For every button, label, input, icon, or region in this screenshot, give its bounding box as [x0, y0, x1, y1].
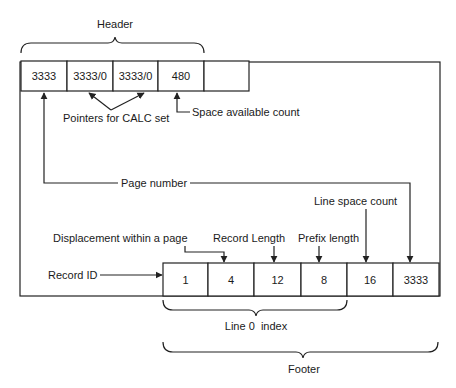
line0-index-brace: [163, 300, 347, 316]
footer-cell-value: 12: [271, 274, 283, 286]
footer-cells: 1 4 12 8 16 3333: [163, 263, 439, 296]
displacement-label: Displacement within a page: [53, 232, 188, 244]
footer-label: Footer: [288, 363, 320, 375]
page-layout-diagram: Header 3333 3333/0 3333/0 480 Pointers f…: [0, 0, 456, 388]
prefix-length-label: Prefix length: [298, 232, 359, 244]
header-cells: 3333 3333/0 3333/0 480: [21, 61, 249, 91]
header-cell-value: 480: [172, 70, 190, 82]
page-number-label: Page number: [121, 177, 187, 189]
line-space-count-label: Line space count: [314, 195, 397, 207]
line0-index-label: Line 0 index: [225, 320, 288, 332]
pointers-calc-label: Pointers for CALC set: [63, 112, 169, 124]
space-available-label: Space available count: [192, 106, 300, 118]
header-label: Header: [97, 18, 133, 30]
header-cell: [204, 61, 249, 91]
record-id-label: Record ID: [48, 269, 98, 281]
header-brace: [21, 37, 204, 53]
footer-cell-value: 8: [321, 274, 327, 286]
header-cell-value: 3333/0: [73, 70, 107, 82]
page-outline: [20, 62, 440, 296]
header-cell-value: 3333/0: [119, 70, 153, 82]
footer-cell-value: 4: [228, 274, 234, 286]
footer-cell-value: 16: [364, 274, 376, 286]
footer-cell-value: 3333: [404, 274, 428, 286]
header-cell-value: 3333: [32, 70, 56, 82]
footer-cell-value: 1: [182, 274, 188, 286]
record-length-label: Record Length: [213, 232, 285, 244]
footer-brace: [163, 342, 438, 358]
